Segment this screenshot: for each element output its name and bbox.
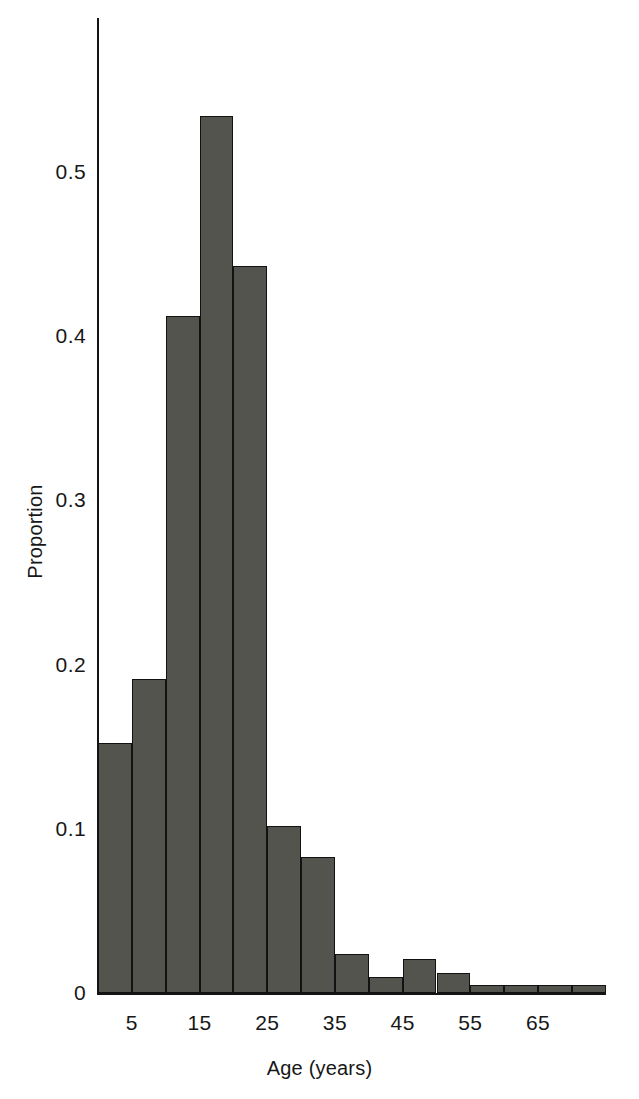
x-axis-title: Age (years) xyxy=(0,1057,639,1080)
x-axis-tick-label: 5 xyxy=(102,1012,162,1033)
x-axis-tick-labels: 5152535455565 xyxy=(0,0,639,1099)
histogram-figure: 00.10.20.30.40.5 5152535455565 Age (year… xyxy=(0,0,639,1099)
x-axis-tick-label: 15 xyxy=(170,1012,230,1033)
x-axis-tick-label: 55 xyxy=(440,1012,500,1033)
x-axis-tick-label: 45 xyxy=(373,1012,433,1033)
x-axis-tick-label: 65 xyxy=(508,1012,568,1033)
y-axis-title: Proportion xyxy=(24,442,47,622)
x-axis-tick-label: 25 xyxy=(237,1012,297,1033)
plot-area: 00.10.20.30.40.5 5152535455565 Age (year… xyxy=(0,0,639,1099)
x-axis-tick-label: 35 xyxy=(305,1012,365,1033)
